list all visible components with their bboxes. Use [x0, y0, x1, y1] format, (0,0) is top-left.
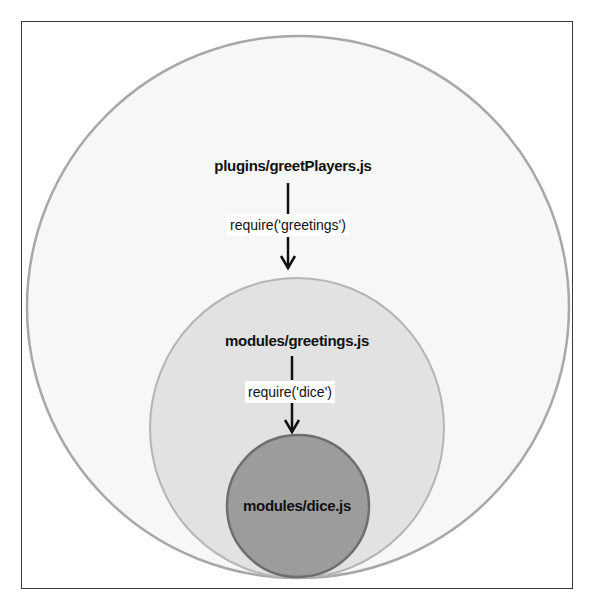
- node-label-greetings: modules/greetings.js: [225, 332, 369, 349]
- diagram-canvas: [0, 0, 592, 611]
- node-label-dice: modules/dice.js: [243, 497, 351, 514]
- node-label-greetPlayers: plugins/greetPlayers.js: [214, 157, 371, 174]
- edge-label-require-dice: require('dice'): [245, 381, 335, 403]
- edge-label-require-greetings: require('greetings'): [227, 214, 349, 236]
